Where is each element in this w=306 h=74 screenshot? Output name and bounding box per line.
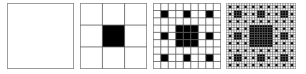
carpet-svg bbox=[7, 3, 74, 69]
carpet-iteration-2 bbox=[153, 3, 221, 69]
carpet-iteration-1 bbox=[80, 3, 147, 69]
carpet-svg bbox=[226, 3, 296, 69]
carpet-iteration-3 bbox=[226, 3, 296, 69]
carpet-iteration-0 bbox=[7, 3, 74, 69]
carpet-svg bbox=[153, 3, 221, 69]
carpet-svg bbox=[80, 3, 147, 69]
